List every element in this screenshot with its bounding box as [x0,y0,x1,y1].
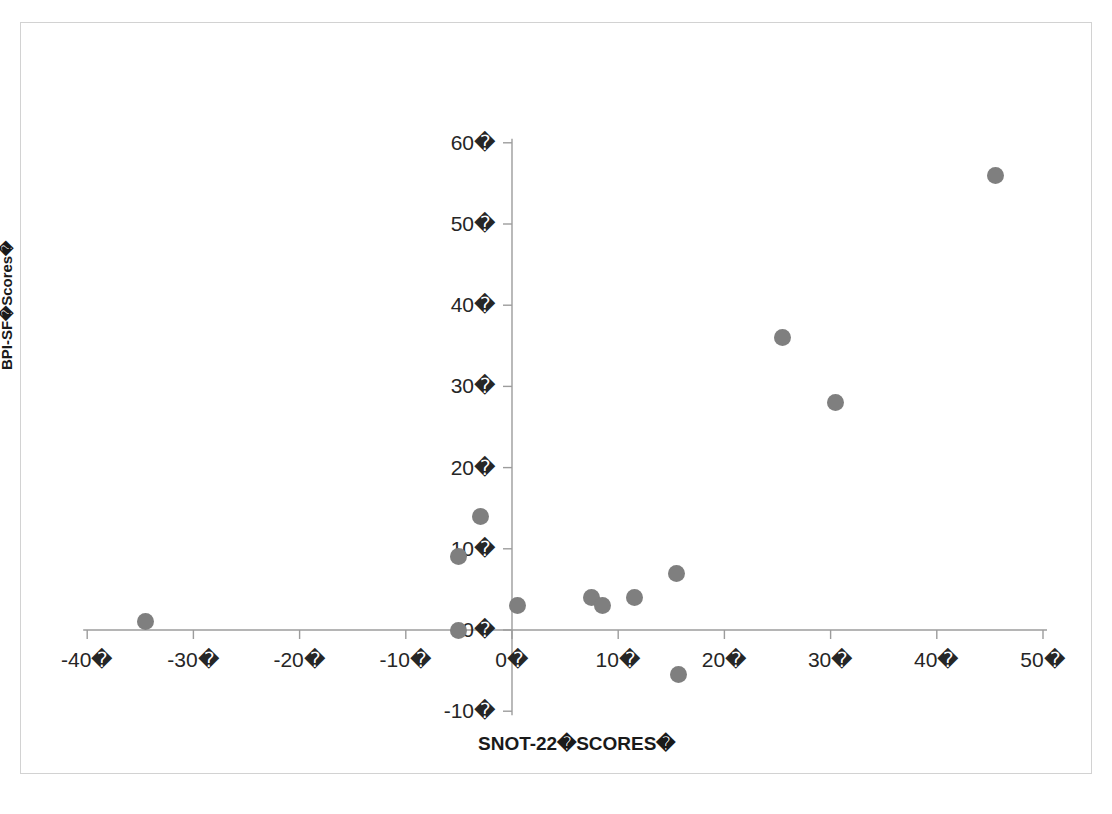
y-tick-label: 40� [406,293,496,317]
x-tick-label: -30� [167,648,219,672]
data-point [450,622,467,639]
y-axis-title: BPI-SF�Scores� [0,200,16,370]
axis-lines [0,0,1112,814]
x-tick-label: 10� [596,648,641,672]
y-tick-label: 50� [406,212,496,236]
x-tick-label: -10� [380,648,432,672]
x-tick-label: 40� [914,648,959,672]
data-point [626,589,643,606]
data-point [987,167,1004,184]
plot-area: BPI-SF�Scores� SNOT-22�SCORES� -40�-30�-… [0,0,1112,814]
x-axis-title: SNOT-22�SCORES� [478,732,675,755]
y-tick-label: 60� [406,131,496,155]
x-tick-label: 0� [495,648,529,672]
y-tick-label: 20� [406,456,496,480]
x-tick-label: -20� [273,648,325,672]
x-tick-label: -40� [61,648,113,672]
scatter-plot-figure: BPI-SF�Scores� SNOT-22�SCORES� -40�-30�-… [0,0,1112,814]
data-point [472,508,489,525]
y-tick-label: -10� [406,699,496,723]
y-tick-label: 30� [406,374,496,398]
data-point [509,597,526,614]
data-point [594,597,611,614]
x-tick-label: 50� [1020,648,1065,672]
x-tick-label: 20� [702,648,747,672]
x-tick-label: 30� [808,648,853,672]
data-point [668,565,685,582]
